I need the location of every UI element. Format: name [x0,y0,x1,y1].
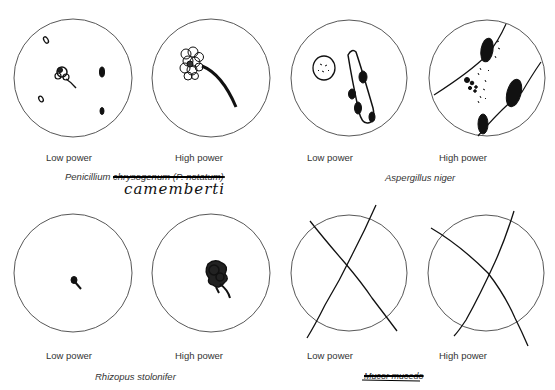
label-aspergillus-low: Low power [290,152,370,163]
species-aspergillus: Aspergillus niger [385,172,455,183]
label-rhizopus-low: Low power [29,350,109,361]
label-mucor-high: High power [423,350,503,361]
species-rhizopus: Rhizopus stolonifer [95,371,176,382]
label-penicillium-low: Low power [29,152,109,163]
rhizopus-high-sketch [206,261,230,298]
aspergillus-high-sketch [434,24,541,136]
label-aspergillus-high: High power [423,152,503,163]
penicillium-high-sketch [180,47,236,107]
microscope-sketches [0,0,555,390]
label-mucor-low: Low power [290,350,370,361]
mucor-low-crossout [307,205,397,338]
field-rhizopus-low [14,214,132,332]
handwritten-camemberti: camemberti [124,180,225,198]
rhizopus-low-sketch [71,277,81,290]
field-penicillium-low [14,19,132,137]
species-mucor-struck: Mucor mucedo [364,371,424,381]
field-mucor-high [428,215,544,331]
aspergillus-low-sketch [313,51,375,124]
field-mucor-low [291,215,407,331]
label-rhizopus-high: High power [159,350,239,361]
species-penicillium-genus: Penicillium [65,171,113,182]
field-penicillium-high [152,19,270,137]
label-penicillium-high: High power [159,152,239,163]
penicillium-low-sketch [38,36,105,115]
field-aspergillus-low [291,20,407,136]
